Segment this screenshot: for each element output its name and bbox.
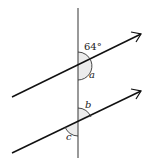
label-angle-a: a	[89, 69, 95, 80]
parallel-lines-diagram: 64° a b c	[0, 0, 151, 167]
label-64-degrees: 64°	[84, 41, 102, 52]
parallel-line-upper	[12, 34, 141, 97]
label-angle-c: c	[66, 131, 72, 142]
parallel-line-lower	[12, 91, 141, 153]
label-angle-b: b	[85, 99, 91, 110]
